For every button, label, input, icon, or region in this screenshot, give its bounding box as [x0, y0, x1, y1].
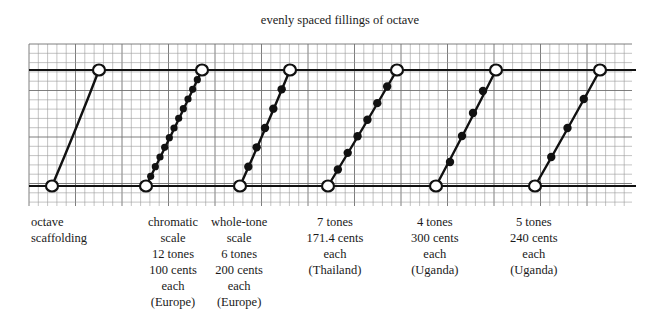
- octave-endpoint-icon: [46, 181, 58, 192]
- octave-endpoint-icon: [594, 65, 606, 76]
- tone-dot-icon: [580, 95, 588, 103]
- caption-line: scale: [148, 230, 198, 246]
- caption-line: each: [510, 246, 558, 262]
- caption-whole-tone: whole-tonescale6 tones200 centseach(Euro…: [211, 214, 267, 310]
- tone-dot-icon: [458, 132, 466, 140]
- tone-dot-icon: [189, 86, 196, 93]
- octave-endpoint-icon: [529, 181, 541, 192]
- caption-line: (Thailand): [307, 262, 364, 278]
- caption-line: 6 tones: [211, 246, 267, 262]
- caption-line: scale: [211, 230, 267, 246]
- caption-line: (Uganda): [510, 262, 558, 278]
- caption-line: 7 tones: [307, 214, 364, 230]
- caption-line: 171.4 cents: [307, 230, 364, 246]
- octave-endpoint-icon: [490, 65, 502, 76]
- caption-line: 300 cents: [411, 230, 459, 246]
- caption-line: 12 tones: [148, 246, 198, 262]
- caption-line: (Europe): [148, 294, 198, 310]
- caption-line: scaffolding: [31, 230, 87, 246]
- octave-endpoint-icon: [196, 65, 208, 76]
- caption-chromatic: chromaticscale12 tones100 centseach(Euro…: [148, 214, 198, 310]
- tone-dot-icon: [446, 158, 454, 166]
- tone-dot-icon: [152, 163, 159, 170]
- caption-line: (Europe): [211, 294, 267, 310]
- tone-dot-icon: [383, 82, 391, 90]
- caption-line: each: [307, 246, 364, 262]
- tone-dot-icon: [170, 124, 177, 131]
- tone-dot-icon: [479, 87, 487, 95]
- tone-dot-icon: [194, 76, 201, 83]
- tone-dot-icon: [184, 95, 191, 102]
- caption-line: each: [211, 278, 267, 294]
- caption-seven-tones: 7 tones171.4 centseach(Thailand): [307, 214, 364, 278]
- tone-dot-icon: [344, 149, 352, 157]
- octave-endpoint-icon: [234, 181, 246, 192]
- scale-whole-tone: [234, 65, 296, 192]
- tone-dot-icon: [363, 116, 371, 124]
- octave-endpoint-icon: [322, 181, 334, 192]
- tone-dot-icon: [180, 105, 187, 112]
- octave-endpoint-icon: [284, 65, 296, 76]
- caption-line: each: [411, 246, 459, 262]
- tone-dot-icon: [175, 115, 182, 122]
- caption-line: 5 tones: [510, 214, 558, 230]
- caption-line: octave: [31, 214, 87, 230]
- octave-endpoint-icon: [430, 181, 442, 192]
- tone-dot-icon: [147, 173, 154, 180]
- caption-line: 240 cents: [510, 230, 558, 246]
- caption-line: whole-tone: [211, 214, 267, 230]
- tone-dot-icon: [244, 162, 252, 170]
- caption-line: each: [148, 278, 198, 294]
- scale-seven-tones: [322, 65, 403, 192]
- octave-endpoint-icon: [391, 65, 403, 76]
- tone-dot-icon: [373, 99, 381, 107]
- caption-four-tones: 4 tones300 centseach(Uganda): [411, 214, 459, 278]
- tone-dot-icon: [161, 144, 168, 151]
- tone-dot-icon: [469, 109, 477, 117]
- tone-dot-icon: [166, 134, 173, 141]
- tone-dot-icon: [334, 165, 342, 173]
- tone-dot-icon: [353, 132, 361, 140]
- tone-dot-icon: [156, 153, 163, 160]
- octave-endpoint-icon: [93, 65, 105, 76]
- tone-dot-icon: [563, 124, 571, 132]
- caption-five-tones: 5 tones240 centseach(Uganda): [510, 214, 558, 278]
- tone-dot-icon: [277, 85, 285, 93]
- caption-line: chromatic: [148, 214, 198, 230]
- octave-endpoint-icon: [140, 181, 152, 192]
- caption-line: 4 tones: [411, 214, 459, 230]
- tone-dot-icon: [269, 104, 277, 112]
- tone-dot-icon: [252, 143, 260, 151]
- caption-octave-scaffolding: octavescaffolding: [31, 214, 87, 246]
- caption-line: 200 cents: [211, 262, 267, 278]
- caption-line: (Uganda): [411, 262, 459, 278]
- caption-line: 100 cents: [148, 262, 198, 278]
- tone-dot-icon: [547, 153, 555, 161]
- tone-dot-icon: [261, 124, 269, 132]
